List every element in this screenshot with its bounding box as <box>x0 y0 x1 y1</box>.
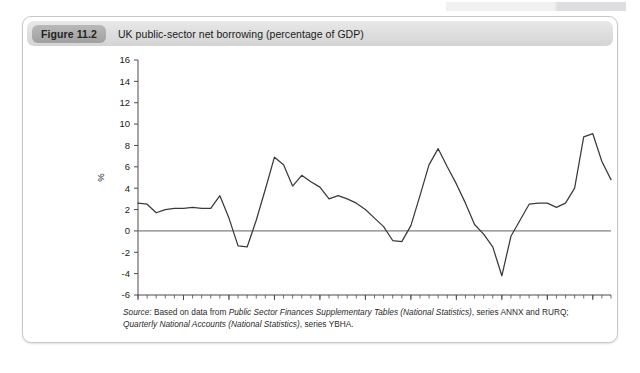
figure-caption-bar: Figure 11.2 UK public-sector net borrowi… <box>27 21 613 46</box>
svg-text:0: 0 <box>125 225 130 236</box>
data-series-line <box>138 134 611 276</box>
source-publication-1: Public Sector Finances Supplementary Tab… <box>229 307 472 317</box>
svg-text:4: 4 <box>125 183 130 194</box>
y-axis-title: % <box>95 173 106 182</box>
source-text-a: Based on data from <box>152 307 229 317</box>
chart-plot-region: -6-4-20246810121416 19601965197019751980… <box>23 48 617 300</box>
y-axis-tick-labels: -6-4-20246810121416 <box>119 54 130 300</box>
svg-text:12: 12 <box>119 97 130 108</box>
svg-text:%: % <box>95 173 106 182</box>
source-text-d: , series YBHA. <box>300 319 354 329</box>
page-header-bleed <box>446 2 626 11</box>
svg-text:8: 8 <box>125 140 130 151</box>
line-chart: -6-4-20246810121416 19601965197019751980… <box>23 48 618 300</box>
source-label: Source: <box>123 307 152 317</box>
figure-card: Figure 11.2 UK public-sector net borrowi… <box>22 16 618 343</box>
svg-text:14: 14 <box>119 76 130 87</box>
chart-axes <box>134 60 611 300</box>
svg-text:-2: -2 <box>122 247 130 258</box>
svg-text:-4: -4 <box>122 268 130 279</box>
svg-text:6: 6 <box>125 161 130 172</box>
svg-text:-6: -6 <box>122 289 130 300</box>
svg-text:10: 10 <box>119 118 130 129</box>
source-note: Source: Based on data from Public Sector… <box>123 307 593 330</box>
figure-number-badge: Figure 11.2 <box>32 25 106 43</box>
source-text-c: , series ANNX and RURQ; <box>472 307 569 317</box>
source-publication-2: Quarterly National Accounts (National St… <box>123 319 300 329</box>
figure-title: UK public-sector net borrowing (percenta… <box>118 28 364 40</box>
svg-text:16: 16 <box>119 54 130 65</box>
svg-text:2: 2 <box>125 204 130 215</box>
